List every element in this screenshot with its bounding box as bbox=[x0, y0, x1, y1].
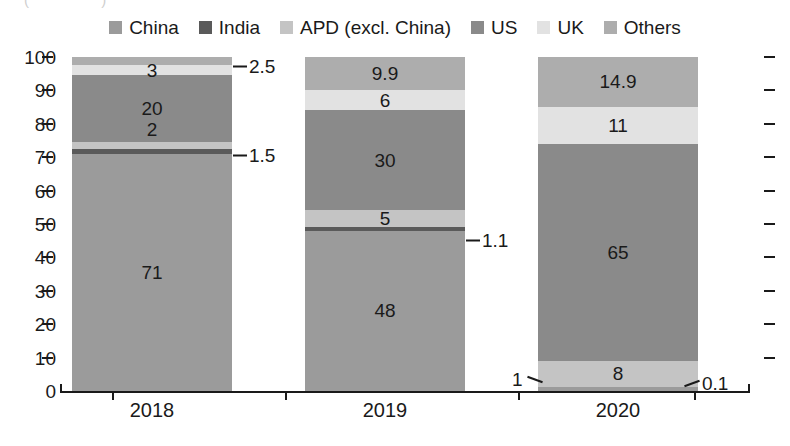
segment-2018-uk[interactable]: 3 bbox=[72, 65, 232, 75]
stacked-bar-2020[interactable]: 8 65 11 14.9 bbox=[538, 57, 698, 391]
legend-item-others[interactable]: Others bbox=[604, 18, 681, 37]
x-tick-mark bbox=[518, 391, 520, 400]
legend-item-india[interactable]: India bbox=[199, 18, 260, 37]
legend-swatch-apd bbox=[280, 21, 293, 34]
y-tick-mark bbox=[42, 256, 53, 258]
y-tick-mark bbox=[42, 223, 53, 225]
callout-label-2-5: 2.5 bbox=[249, 57, 275, 76]
segment-label-2018-us: 20 bbox=[141, 99, 162, 118]
segment-label-2018-china: 71 bbox=[141, 263, 162, 282]
segment-2020-apd[interactable]: 8 bbox=[538, 361, 698, 388]
x-axis-line bbox=[60, 391, 750, 393]
y-tick-mark-right bbox=[764, 290, 775, 292]
callout-label-0-1: 0.1 bbox=[702, 374, 728, 393]
segment-label-2019-uk: 6 bbox=[380, 91, 391, 110]
stacked-bar-2019[interactable]: 48 5 30 6 9.9 bbox=[305, 57, 465, 391]
legend-label-others: Others bbox=[624, 18, 681, 37]
stacked-bar-2018[interactable]: 71 2 20 3 bbox=[72, 57, 232, 391]
cropped-subtitle-artifact: ( ) bbox=[24, 0, 140, 8]
segment-2019-us[interactable]: 30 bbox=[305, 110, 465, 210]
y-tick-mark-right bbox=[764, 56, 775, 58]
segment-label-2020-us: 65 bbox=[607, 243, 628, 262]
x-tick-mark bbox=[285, 391, 287, 400]
segment-label-2019-others: 9.9 bbox=[372, 64, 398, 83]
x-axis-left-cap bbox=[60, 384, 62, 392]
y-tick-mark-right bbox=[764, 89, 775, 91]
segment-label-2019-apd: 5 bbox=[380, 209, 391, 228]
callout-label-1-5: 1.5 bbox=[249, 146, 275, 165]
segment-2019-china[interactable]: 48 bbox=[305, 231, 465, 391]
y-tick-mark bbox=[42, 190, 53, 192]
legend-swatch-others bbox=[604, 21, 617, 34]
y-tick-mark-right bbox=[764, 190, 775, 192]
x-tick-mark bbox=[112, 391, 114, 400]
callout-2019-india: 1.1 bbox=[466, 231, 508, 250]
y-tick-mark-right bbox=[764, 357, 775, 359]
y-tick-mark bbox=[42, 89, 53, 91]
callout-label-1-1: 1.1 bbox=[482, 231, 508, 250]
x-axis-label-2019: 2019 bbox=[305, 400, 465, 420]
leader-line bbox=[233, 154, 247, 156]
x-axis-label-2020: 2020 bbox=[538, 400, 698, 420]
legend-item-apd[interactable]: APD (excl. China) bbox=[280, 18, 451, 37]
plot-area: 71 2 20 3 bbox=[60, 57, 750, 391]
callout-2020-china: 1 bbox=[512, 370, 543, 389]
segment-label-2020-uk: 11 bbox=[608, 116, 628, 135]
leader-line bbox=[684, 379, 700, 386]
callout-label-1: 1 bbox=[512, 370, 523, 389]
segment-label-2020-others: 14.9 bbox=[600, 72, 637, 91]
callout-2018-india: 1.5 bbox=[233, 146, 275, 165]
legend-swatch-uk bbox=[537, 21, 550, 34]
bar-group-2020[interactable]: 8 65 11 14.9 bbox=[538, 57, 698, 391]
legend-item-us[interactable]: US bbox=[471, 18, 517, 37]
y-tick-label-0: 0 bbox=[45, 382, 56, 401]
x-axis-label-2018: 2018 bbox=[72, 400, 232, 420]
legend-label-india: India bbox=[219, 18, 260, 37]
y-tick-mark bbox=[42, 323, 53, 325]
y-tick-mark bbox=[42, 156, 53, 158]
chart-legend: China India APD (excl. China) US UK Othe… bbox=[0, 14, 790, 40]
y-tick-mark bbox=[42, 123, 53, 125]
segment-2019-uk[interactable]: 6 bbox=[305, 90, 465, 110]
leader-line bbox=[527, 375, 543, 382]
legend-label-uk: UK bbox=[557, 18, 583, 37]
legend-swatch-us bbox=[471, 21, 484, 34]
segment-2018-india[interactable] bbox=[72, 149, 232, 154]
legend-label-us: US bbox=[491, 18, 517, 37]
y-tick-mark-right bbox=[764, 156, 775, 158]
bar-group-2018[interactable]: 71 2 20 3 bbox=[72, 57, 232, 391]
bar-group-2019[interactable]: 48 5 30 6 9.9 bbox=[305, 57, 465, 391]
y-tick-mark-right bbox=[764, 223, 775, 225]
callout-2020-india: 0.1 bbox=[684, 374, 728, 393]
segment-2020-others[interactable]: 14.9 bbox=[538, 57, 698, 107]
x-axis-right-cap bbox=[748, 384, 750, 392]
legend-swatch-india bbox=[199, 21, 212, 34]
stacked-bar-chart: ( ) China India APD (excl. China) US UK … bbox=[0, 0, 790, 446]
y-tick-mark-right bbox=[764, 323, 775, 325]
leader-line bbox=[233, 65, 247, 67]
segment-label-2018-apd: 2 bbox=[147, 120, 158, 139]
y-tick-mark-right bbox=[764, 123, 775, 125]
segment-2019-apd[interactable]: 5 bbox=[305, 210, 465, 227]
y-tick-mark bbox=[42, 56, 53, 58]
legend-label-apd: APD (excl. China) bbox=[300, 18, 451, 37]
segment-2018-apd[interactable]: 2 bbox=[72, 142, 232, 149]
y-tick-mark bbox=[42, 357, 53, 359]
segment-2018-china[interactable]: 71 bbox=[72, 154, 232, 391]
segment-label-2019-us: 30 bbox=[374, 151, 395, 170]
legend-item-uk[interactable]: UK bbox=[537, 18, 583, 37]
legend-item-china[interactable]: China bbox=[109, 18, 179, 37]
y-tick-mark-right bbox=[764, 256, 775, 258]
callout-2018-others: 2.5 bbox=[233, 57, 275, 76]
segment-label-2019-china: 48 bbox=[374, 301, 395, 320]
segment-2020-us[interactable]: 65 bbox=[538, 144, 698, 361]
segment-label-2020-apd: 8 bbox=[613, 364, 624, 383]
segment-2020-uk[interactable]: 11 bbox=[538, 107, 698, 144]
y-tick-mark bbox=[42, 290, 53, 292]
legend-swatch-china bbox=[109, 21, 122, 34]
segment-label-2018-uk: 3 bbox=[147, 61, 158, 80]
leader-line bbox=[466, 239, 480, 241]
segment-2019-others[interactable]: 9.9 bbox=[305, 57, 465, 90]
legend-label-china: China bbox=[129, 18, 179, 37]
